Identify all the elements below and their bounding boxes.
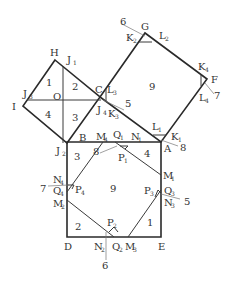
svg-text:3: 3 [171, 202, 175, 209]
svg-text:3: 3 [133, 246, 137, 253]
label-P4: P4 [75, 184, 85, 196]
svg-text:4: 4 [103, 109, 107, 116]
label-H: H [50, 47, 59, 58]
label-J1: J1 [66, 54, 77, 66]
label-P2: P2 [107, 217, 117, 229]
svg-text:2: 2 [101, 246, 105, 253]
svg-text:2: 2 [62, 150, 66, 157]
label-M4: M4 [96, 131, 108, 143]
label-P1: P1 [118, 152, 128, 164]
svg-text:J: J [66, 54, 71, 65]
svg-text:3: 3 [115, 113, 119, 120]
label-F: F [211, 74, 218, 85]
label-N3: N3 [164, 197, 175, 209]
svg-text:D: D [64, 241, 72, 252]
small-square [23, 60, 100, 143]
label-L1: L1 [152, 121, 162, 133]
label-P3: P3 [144, 185, 154, 197]
svg-text:1: 1 [120, 134, 124, 141]
svg-text:4: 4 [205, 66, 209, 73]
svg-text:A: A [163, 143, 172, 154]
callout-5-C: 5 [125, 98, 131, 109]
svg-text:E: E [158, 241, 165, 252]
callout-8-A: 8 [180, 142, 186, 153]
label-M3: M3 [125, 241, 137, 253]
svg-text:B: B [79, 132, 86, 143]
svg-text:3: 3 [150, 190, 154, 197]
svg-text:I: I [12, 101, 16, 112]
svg-text:1: 1 [158, 126, 162, 133]
region-large-4: 4 [144, 148, 150, 159]
region-large-2: 2 [75, 221, 81, 232]
label-L2: L2 [159, 30, 169, 42]
svg-text:2: 2 [61, 203, 65, 210]
label-E: E [158, 241, 165, 252]
label-M1: M1 [163, 170, 175, 182]
label-Q4: Q4 [53, 185, 64, 197]
svg-text:1: 1 [73, 59, 77, 66]
cut-M3-Q3 [128, 190, 161, 237]
region-large-1: 1 [147, 217, 153, 228]
region-small-4: 4 [45, 109, 51, 120]
label-M2: M2 [53, 198, 65, 210]
label-O: O [53, 91, 61, 102]
label-Q2: Q2 [112, 241, 123, 253]
svg-text:3: 3 [29, 93, 33, 100]
svg-text:2: 2 [113, 222, 117, 229]
label-C: C [95, 84, 103, 95]
svg-text:F: F [211, 74, 218, 85]
svg-text:4: 4 [81, 189, 85, 196]
svg-text:2: 2 [119, 246, 123, 253]
svg-text:1: 1 [171, 175, 175, 182]
label-K2: K2 [126, 32, 137, 44]
label-N1: N1 [131, 131, 142, 143]
callout-6-N2: 6 [102, 260, 108, 271]
region-medium-9: 9 [149, 81, 155, 92]
svg-text:1: 1 [124, 157, 128, 164]
label-K4: K4 [198, 61, 209, 73]
label-L3: L3 [107, 84, 117, 96]
label-D: D [64, 241, 72, 252]
label-N2: N2 [94, 241, 105, 253]
svg-text:2: 2 [165, 35, 169, 42]
label-B: B [79, 132, 86, 143]
label-I: I [12, 101, 16, 112]
svg-text:J: J [22, 88, 27, 99]
label-J2: J2 [55, 145, 66, 157]
svg-text:4: 4 [60, 190, 64, 197]
callout-6-G: 6 [120, 16, 126, 27]
leader-8-Q1 [100, 146, 117, 153]
region-large-3: 3 [74, 151, 80, 162]
region-large-9: 9 [110, 183, 116, 194]
svg-text:H: H [50, 47, 59, 58]
svg-text:G: G [141, 21, 149, 32]
svg-text:4: 4 [104, 136, 108, 143]
label-J4: J4 [96, 104, 107, 116]
callout-5-Q3: 5 [184, 196, 190, 207]
region-small-3: 3 [72, 112, 78, 123]
label-A: A [163, 143, 172, 154]
svg-text:J: J [96, 104, 101, 115]
svg-text:3: 3 [113, 89, 117, 96]
label-L4: L4 [199, 92, 209, 104]
svg-text:C: C [95, 84, 103, 95]
region-small-1: 1 [46, 77, 52, 88]
callout-7-F: 7 [214, 90, 220, 101]
callout-8-Q1: 8 [93, 146, 99, 157]
svg-text:1: 1 [138, 136, 142, 143]
svg-text:4: 4 [205, 97, 209, 104]
svg-text:2: 2 [133, 37, 137, 44]
label-Q1: Q1 [113, 129, 124, 141]
label-Q3: Q3 [164, 185, 175, 197]
svg-text:O: O [53, 91, 61, 102]
callout-7-Q4: 7 [40, 183, 46, 194]
svg-text:J: J [55, 145, 60, 156]
region-small-2: 2 [72, 81, 78, 92]
pythagorean-dissection-diagram: H J1 J3 I O C J4 K3 L3 J2 1 2 4 3 G K2 L… [0, 0, 235, 288]
label-G: G [141, 21, 149, 32]
svg-text:3: 3 [171, 190, 175, 197]
